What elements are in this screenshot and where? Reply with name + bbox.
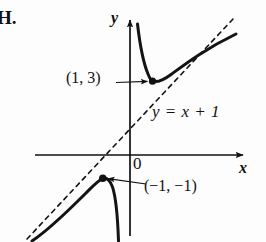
axes-group xyxy=(35,20,243,236)
local-minimum-label: (1, 3) xyxy=(66,70,101,86)
leader-arrow-max xyxy=(108,179,146,184)
y-axis-label: y xyxy=(111,10,118,26)
graph-figure: H. y x 0 (1, 3) (−1, −1) y = x + 1 xyxy=(0,0,266,242)
problem-letter-label: H. xyxy=(0,8,17,27)
local-maximum-dot xyxy=(99,174,107,182)
leader-arrow-min xyxy=(116,81,148,82)
graph-canvas xyxy=(0,0,266,242)
x-axis-label: x xyxy=(239,160,247,176)
local-maximum-label: (−1, −1) xyxy=(144,178,197,194)
local-minimum-dot xyxy=(149,78,156,85)
origin-label: 0 xyxy=(133,155,142,172)
asymptote-equation-label: y = x + 1 xyxy=(152,103,220,120)
curve-branch-left xyxy=(32,178,119,241)
